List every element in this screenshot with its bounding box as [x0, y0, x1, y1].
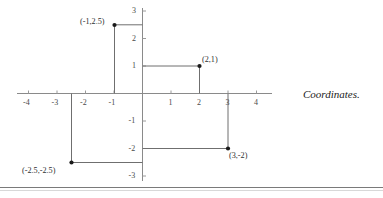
y-tick-label-3: 3	[132, 7, 136, 15]
bottom-divider	[0, 187, 383, 188]
point-label-3-neg2: (3,-2)	[229, 152, 247, 160]
x-tick-label--1: -1	[109, 99, 116, 107]
y-tick-label-1: 1	[132, 62, 136, 70]
figure-caption: Coordinates.	[303, 88, 360, 100]
point-label-neg2point5-neg2point5: (-2.5,-2.5)	[22, 167, 55, 175]
x-tick-label--4: -4	[23, 99, 30, 107]
guide-lines-p1	[114, 25, 143, 94]
x-tick-label--2: -2	[80, 99, 87, 107]
x-tick-label--3: -3	[52, 99, 59, 107]
guide-lines-p2	[143, 66, 200, 94]
x-tick-label-1: 1	[169, 99, 173, 107]
point-marker-p4	[69, 160, 73, 164]
point-marker-p2	[197, 64, 201, 68]
y-tick-label-2: 2	[132, 35, 136, 43]
coordinates-figure: -4 -3 -2 -1 1 2 3 4 3 2 1 -1 -2 -3 (-1,2…	[0, 0, 383, 198]
point-label-2-1: (2,1)	[202, 56, 218, 64]
y-tick-label--3: -3	[129, 172, 136, 180]
point-label-neg1-2point5: (-1,2.5)	[80, 18, 105, 26]
x-tick-label-4: 4	[254, 99, 258, 107]
y-tick-label--2: -2	[129, 145, 136, 153]
x-tick-label-3: 3	[226, 99, 230, 107]
y-tick-label--1: -1	[129, 117, 136, 125]
point-marker-p1	[112, 23, 116, 27]
point-marker-p3	[226, 146, 230, 150]
bottom-divider-shadow	[0, 190, 383, 191]
x-tick-label-2: 2	[197, 99, 201, 107]
guide-lines-p3	[143, 94, 229, 149]
